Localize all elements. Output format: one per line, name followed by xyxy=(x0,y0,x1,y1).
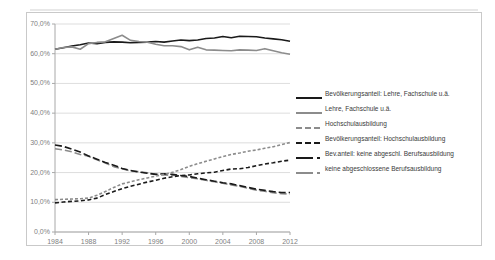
y-axis-tick-label: 0,0% xyxy=(14,228,50,235)
legend-label: Bevölkerungsanteil: Lehre, Fachschule u.… xyxy=(325,90,450,98)
x-axis-tick-label: 1996 xyxy=(141,238,171,245)
x-axis-tick-label: 2000 xyxy=(174,238,204,245)
y-axis-tick-label: 40,0% xyxy=(14,109,50,116)
x-axis-tick-label: 1984 xyxy=(40,238,70,245)
legend-item: Bevölkerungsanteil: Hochschulausbildung xyxy=(296,131,482,146)
legend-label: Hochschulausbildung xyxy=(325,120,387,128)
legend-item: Bev.anteil: keine abgeschl. Berufsausbil… xyxy=(296,146,482,161)
legend-swatch-dashdot-gray xyxy=(296,164,322,174)
legend-swatch-dash-gray xyxy=(296,119,322,129)
legend-swatch-solid-black xyxy=(296,89,322,99)
y-axis-tick-label: 10,0% xyxy=(14,198,50,205)
legend-label: Lehre, Fachschule u.ä. xyxy=(325,105,391,113)
series-line-2 xyxy=(55,149,290,194)
legend-swatch-solid-gray xyxy=(296,104,322,114)
x-axis-tick-label: 2004 xyxy=(208,238,238,245)
legend-item: Bevölkerungsanteil: Lehre, Fachschule u.… xyxy=(296,86,482,101)
x-axis-tick-label: 1988 xyxy=(74,238,104,245)
y-axis-tick-label: 60,0% xyxy=(14,50,50,57)
x-axis-tick-label: 1992 xyxy=(107,238,137,245)
x-axis-tick-label: 2008 xyxy=(241,238,271,245)
series-line-4 xyxy=(55,160,290,203)
legend-item: keine abgeschlossene Berufsausbildung xyxy=(296,161,482,176)
chart-legend: Bevölkerungsanteil: Lehre, Fachschule u.… xyxy=(296,86,482,176)
series-line-1 xyxy=(55,35,290,54)
y-axis-tick-label: 20,0% xyxy=(14,169,50,176)
series-line-5 xyxy=(55,143,290,200)
legend-swatch-dashdot-black xyxy=(296,149,322,159)
legend-label: Bev.anteil: keine abgeschl. Berufsausbil… xyxy=(325,150,454,158)
y-axis-tick-label: 30,0% xyxy=(14,139,50,146)
legend-swatch-dash-black xyxy=(296,134,322,144)
legend-item: Lehre, Fachschule u.ä. xyxy=(296,101,482,116)
legend-label: Bevölkerungsanteil: Hochschulausbildung xyxy=(325,135,445,143)
legend-label: keine abgeschlossene Berufsausbildung xyxy=(325,165,441,173)
legend-item: Hochschulausbildung xyxy=(296,116,482,131)
series-line-3 xyxy=(55,145,290,193)
y-axis-tick-label: 70,0% xyxy=(14,20,50,27)
x-axis-tick-label: 2012 xyxy=(275,238,305,245)
y-axis-tick-label: 50,0% xyxy=(14,79,50,86)
